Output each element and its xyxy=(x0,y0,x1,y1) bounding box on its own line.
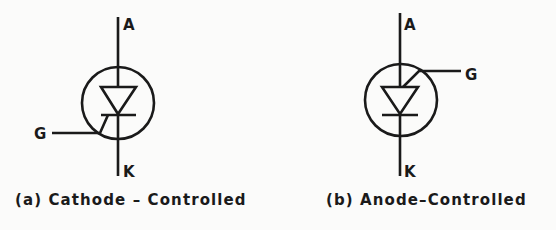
gate-label: G xyxy=(465,66,477,84)
scr-symbol-cathode-controlled xyxy=(52,17,154,176)
gate-label: G xyxy=(34,125,46,143)
anode-label: A xyxy=(404,16,416,34)
caption-b: (b) Anode–Controlled xyxy=(326,191,527,209)
gate-lead xyxy=(403,71,461,87)
cathode-label: K xyxy=(404,163,417,181)
gate-lead xyxy=(52,115,108,133)
panel-b-anode-controlled: A G K (b) Anode–Controlled xyxy=(326,13,527,209)
thyristor-symbols-diagram: A G K (a) Cathode – Controlled A G K (b)… xyxy=(0,0,556,230)
anode-label: A xyxy=(123,16,135,34)
scr-symbol-anode-controlled xyxy=(365,13,461,176)
panel-a-cathode-controlled: A G K (a) Cathode – Controlled xyxy=(15,16,247,209)
diode-triangle-icon xyxy=(382,87,418,114)
diode-triangle-icon xyxy=(101,87,136,114)
caption-a: (a) Cathode – Controlled xyxy=(15,191,247,209)
cathode-label: K xyxy=(123,163,136,181)
